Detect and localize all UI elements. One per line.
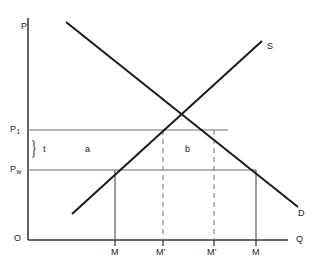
region-a-label: a [85,145,90,154]
world-price-base: P [10,164,16,174]
supply-demand-tariff-figure: P Q O P1 Pw } t a b S D M M' M' M [0,0,330,271]
x-tick-label-m-prime-1: M' [156,248,166,257]
x-tick-label-m-prime-2: M' [207,248,217,257]
tariff-brace-icon: } [31,136,37,158]
x-tick-label-m-2: M [252,248,260,257]
quantity-solid-lines [115,170,256,240]
diagram-canvas [0,0,330,271]
axes-group [28,18,288,240]
tariff-label: t [43,145,46,154]
x-axis-label: Q [296,235,303,244]
region-b-label: b [185,145,190,154]
tariff-price-label: P1 [10,125,20,134]
supply-curve-label: S [267,42,273,51]
world-price-subscript: w [17,168,22,175]
world-price-label: Pw [10,165,21,174]
demand-curve-label: D [298,209,305,218]
origin-label: O [14,234,21,243]
x-axis-ticks [115,240,256,246]
tariff-price-subscript: 1 [17,128,21,135]
supply-curve [72,41,262,214]
tariff-price-base: P [10,124,16,134]
x-tick-label-m-1: M [111,248,119,257]
y-axis-label: P [21,22,27,31]
